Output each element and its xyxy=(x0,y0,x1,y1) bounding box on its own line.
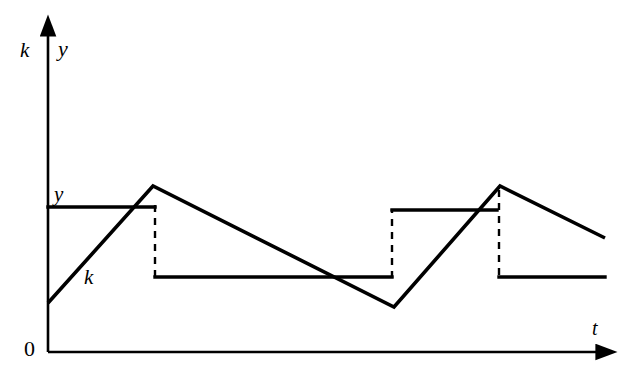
k-waveform-polyline xyxy=(48,186,605,307)
series-k-sawtooth xyxy=(48,186,605,307)
origin-label: 0 xyxy=(24,338,35,360)
y-level-label: y xyxy=(54,184,63,205)
y-axis-label: y xyxy=(58,38,68,60)
t-axis-label: t xyxy=(592,318,598,338)
k-axis-label: k xyxy=(20,40,29,61)
k-curve-label: k xyxy=(84,267,93,288)
series-y-transitions xyxy=(155,190,499,278)
plot-svg xyxy=(0,0,632,391)
figure-canvas: k y y k t 0 xyxy=(0,0,632,391)
series-y-step xyxy=(48,207,605,277)
